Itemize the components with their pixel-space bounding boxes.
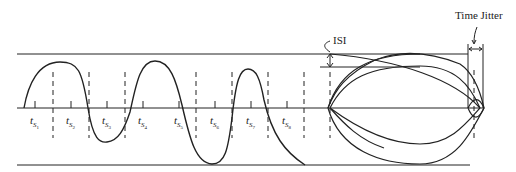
symbol-boundaries xyxy=(53,70,474,138)
sample-label-8-index: 8 xyxy=(289,125,292,130)
sample-label-1-index: 1 xyxy=(37,125,40,130)
sample-ticks xyxy=(35,101,287,108)
eye-pattern xyxy=(328,54,484,164)
svg-text:tS2: tS2 xyxy=(66,114,76,130)
isi-label: ISI xyxy=(333,34,347,46)
sample-label-4-index: 4 xyxy=(145,125,148,130)
sample-label-3-index: 3 xyxy=(109,125,112,130)
isi-callout-curve xyxy=(325,41,330,52)
sample-labels: tS1 tS2 tS3 tS4 tS5 tS6 tS7 tS8 xyxy=(30,114,292,130)
sample-label-5-index: 5 xyxy=(181,125,184,130)
svg-text:tS6: tS6 xyxy=(210,114,220,130)
eye-diagram-figure: ISI Time Jitter tS1 tS2 tS3 tS4 tS5 tS6 … xyxy=(0,0,516,172)
sample-label-7-index: 7 xyxy=(253,125,256,130)
svg-text:tS3: tS3 xyxy=(102,114,112,130)
sample-label-6-index: 6 xyxy=(217,125,220,130)
diagram-canvas: ISI Time Jitter tS1 tS2 tS3 tS4 tS5 tS6 … xyxy=(0,0,516,172)
signal-waveform xyxy=(24,61,305,165)
time-jitter-label: Time Jitter xyxy=(455,9,503,21)
svg-text:tS1: tS1 xyxy=(30,114,40,130)
svg-text:tS4: tS4 xyxy=(138,114,148,130)
svg-text:tS8: tS8 xyxy=(282,114,292,130)
sample-label-2-index: 2 xyxy=(73,125,76,130)
svg-text:tS7: tS7 xyxy=(246,114,256,130)
svg-text:tS5: tS5 xyxy=(174,114,184,130)
